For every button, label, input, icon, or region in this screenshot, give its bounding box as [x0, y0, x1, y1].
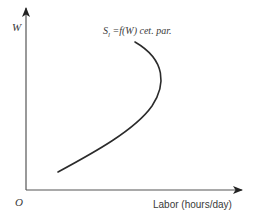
labor-supply-diagram: W O Labor (hours/day) Sl =f(W) cet. par.	[0, 0, 256, 220]
x-axis-label: Labor (hours/day)	[153, 199, 232, 210]
curve-label-equation: =f(W) cet. par.	[110, 25, 171, 37]
y-axis-label: W	[12, 21, 22, 33]
origin-label: O	[15, 196, 23, 208]
labor-supply-curve	[58, 42, 161, 172]
curve-label: Sl =f(W) cet. par.	[103, 25, 171, 39]
